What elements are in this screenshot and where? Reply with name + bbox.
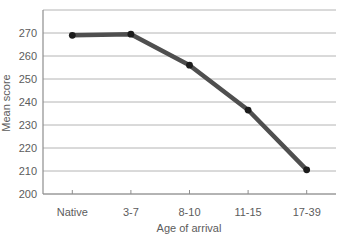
x-tick-label: 17-39 [293, 206, 321, 218]
y-tick-label: 220 [19, 142, 37, 154]
x-tick-label: 3-7 [123, 206, 139, 218]
line-chart: 200210220230240250260270 Native3-78-1011… [0, 0, 341, 244]
y-tick-label: 260 [19, 50, 37, 62]
data-point [186, 62, 193, 69]
data-point [69, 32, 76, 39]
x-tick-label: 8-10 [178, 206, 200, 218]
y-tick-label: 250 [19, 73, 37, 85]
y-tick-label: 210 [19, 165, 37, 177]
x-axis-title: Age of arrival [157, 222, 222, 234]
data-point [303, 166, 310, 173]
x-tick-label: 11-15 [234, 206, 261, 218]
y-axis-tick-labels: 200210220230240250260270 [19, 27, 37, 200]
y-tick-label: 270 [19, 27, 37, 39]
gridlines [43, 10, 336, 194]
y-tick-label: 230 [19, 119, 37, 131]
data-point [127, 31, 134, 38]
y-tick-label: 240 [19, 96, 37, 108]
y-tick-label: 200 [19, 188, 37, 200]
data-point [245, 107, 252, 114]
x-axis-tick-labels: Native3-78-1011-1517-39 [57, 206, 321, 218]
chart-canvas: 200210220230240250260270 Native3-78-1011… [0, 0, 341, 244]
y-axis-title: Mean score [0, 74, 12, 131]
x-tick-label: Native [57, 206, 88, 218]
